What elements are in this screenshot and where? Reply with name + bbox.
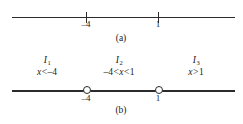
- interval-label-i3-subscript: 3: [196, 59, 199, 66]
- caption-b: (b): [115, 105, 126, 115]
- interval-label-i1-subscript: 1: [47, 59, 50, 66]
- interval-label-i3-name: I: [193, 55, 196, 65]
- number-line-a: [12, 17, 235, 18]
- inequality-i3-bound: 1: [199, 67, 204, 77]
- caption-a: (a): [116, 33, 127, 43]
- tick-label-b-neg4: –4: [82, 93, 91, 103]
- interval-label-i2-subscript: 2: [119, 59, 122, 66]
- inequality-i3: x>1: [188, 67, 203, 77]
- tick-label-a-one: 1: [156, 19, 161, 29]
- inequality-i1: x<–4: [37, 67, 57, 77]
- number-line-b: [12, 90, 235, 92]
- inequality-i2-upper-bound: 1: [130, 67, 135, 77]
- inequality-i1-bound: –4: [48, 67, 58, 77]
- interval-label-i1: I1: [44, 55, 50, 65]
- interval-label-i2-name: I: [116, 55, 119, 65]
- interval-label-i2: I2: [116, 55, 122, 65]
- inequality-i2: –4<x<1: [103, 67, 134, 77]
- tick-label-a-neg4: –4: [82, 19, 91, 29]
- number-line-figure: –4 1 (a) I1 I2 I3 x<–4 –4<x<1 x>1 –4 1 (…: [0, 0, 243, 124]
- interval-label-i1-name: I: [44, 55, 47, 65]
- inequality-i2-lower-bound: –4: [103, 67, 113, 77]
- interval-label-i3: I3: [193, 55, 199, 65]
- tick-label-b-one: 1: [156, 93, 161, 103]
